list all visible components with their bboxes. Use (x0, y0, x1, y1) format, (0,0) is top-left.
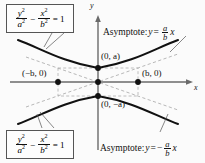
equation-bottom: y2 a2 − x2 b2 = 1 (15, 135, 66, 155)
label-point-pos-b: (b, 0) (142, 69, 162, 78)
equation-top: y2 a2 − x2 b2 = 1 (15, 9, 66, 29)
equation-top-fraction-2: x2 b2 (38, 9, 50, 29)
asymptote-lower-var: x (173, 144, 177, 154)
asymptote-lower-numerator: a (164, 140, 170, 149)
x-axis-label: x (194, 84, 198, 92)
equation-box-bottom: y2 a2 − x2 b2 = 1 (6, 130, 74, 159)
point-neg-b (55, 79, 61, 85)
equation-bottom-fraction-2: x2 b2 (38, 135, 50, 155)
equation-top-equals: = 1 (52, 14, 66, 24)
label-vertex-upper: (0, a) (101, 52, 120, 61)
asymptote-lower-prefix: Asymptote: (100, 144, 144, 154)
asymptote-upper-fraction: a b (162, 24, 168, 42)
hyperbola-figure: y x (0, a) (0, −a) (−b, 0) (b, 0) Asympt… (0, 0, 205, 163)
equation-top-den-2: b2 (38, 18, 50, 29)
leader-line-bottom-box-b (40, 112, 54, 128)
asymptote-lower-equals: = (151, 144, 156, 154)
label-point-neg-b: (−b, 0) (22, 69, 47, 78)
equation-bottom-fraction-1: y2 a2 (16, 135, 28, 155)
point-pos-b (135, 79, 141, 85)
equation-top-fraction-1: y2 a2 (16, 9, 28, 29)
label-vertex-lower: (0, −a) (101, 100, 125, 109)
asymptote-label-lower: Asymptote: y = − a b x (100, 140, 177, 158)
asymptote-label-upper: Asymptote: y = a b x (103, 24, 174, 42)
asymptote-lower-lhs: y (145, 144, 149, 154)
point-origin (95, 79, 101, 85)
x-axis-arrow (186, 79, 193, 85)
leader-line-top-box-b (46, 33, 64, 49)
point-vertex-upper (95, 65, 101, 71)
asymptote-upper-lhs: y (148, 28, 152, 38)
equation-bottom-equals: = 1 (52, 140, 66, 150)
equation-top-den-1: a2 (16, 18, 28, 29)
equation-top-operator: − (29, 14, 36, 24)
asymptote-upper-denominator: b (162, 32, 168, 42)
asymptote-upper-prefix: Asymptote: (103, 28, 147, 38)
equation-bottom-den-2: b2 (38, 144, 50, 155)
equation-box-top: y2 a2 − x2 b2 = 1 (6, 4, 74, 33)
y-axis-arrow (95, 15, 101, 22)
asymptote-upper-equals: = (154, 28, 159, 38)
y-axis-label: y (90, 2, 94, 10)
asymptote-lower-sign: − (157, 144, 162, 154)
asymptote-lower-fraction: a b (164, 140, 170, 158)
asymptote-lower-denominator: b (164, 148, 170, 158)
asymptote-upper-var: x (170, 28, 174, 38)
equation-bottom-den-1: a2 (16, 144, 28, 155)
asymptote-upper-numerator: a (162, 24, 168, 33)
equation-bottom-operator: − (29, 140, 36, 150)
